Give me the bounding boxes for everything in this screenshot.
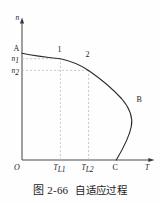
curve-point-label-a: A: [14, 44, 20, 53]
curve-point-label-2: 2: [86, 50, 90, 59]
curve-annotations-group: A 1 2 B C: [14, 44, 142, 173]
curve-point-label-c: C: [113, 163, 118, 172]
curve-point-label-1: 1: [58, 45, 62, 54]
y-tick-labels-group: n1 n2: [12, 54, 20, 77]
axis-origin-label: O: [14, 163, 20, 172]
x-axis-arrow-icon: [148, 158, 154, 162]
x-tick-labels-group: TL1 TL2: [54, 163, 94, 174]
y-tick-label-n1: n1: [12, 54, 20, 65]
x-tick-label-tl1: TL1: [54, 163, 66, 174]
figure-caption-number: 图 2-66: [33, 181, 68, 197]
y-axis-arrow-icon: [20, 18, 24, 24]
chart-plot-area: n T O A 1 2 B C: [0, 0, 160, 176]
figure-caption-title: 自适应过程: [75, 182, 127, 197]
characteristic-curve: [22, 53, 132, 160]
y-tick-label-n2: n2: [12, 66, 20, 77]
x-tick-label-tl2: TL2: [82, 163, 94, 174]
curve-point-label-b: B: [137, 95, 142, 104]
y-axis-label: n: [16, 13, 20, 22]
figure-container: n T O A 1 2 B C: [0, 0, 160, 203]
guide-lines-group: [22, 59, 89, 160]
figure-caption: 图 2-66 自适应过程: [0, 178, 160, 200]
axes-group: n T O: [14, 13, 155, 173]
x-axis-label: T: [145, 163, 150, 172]
